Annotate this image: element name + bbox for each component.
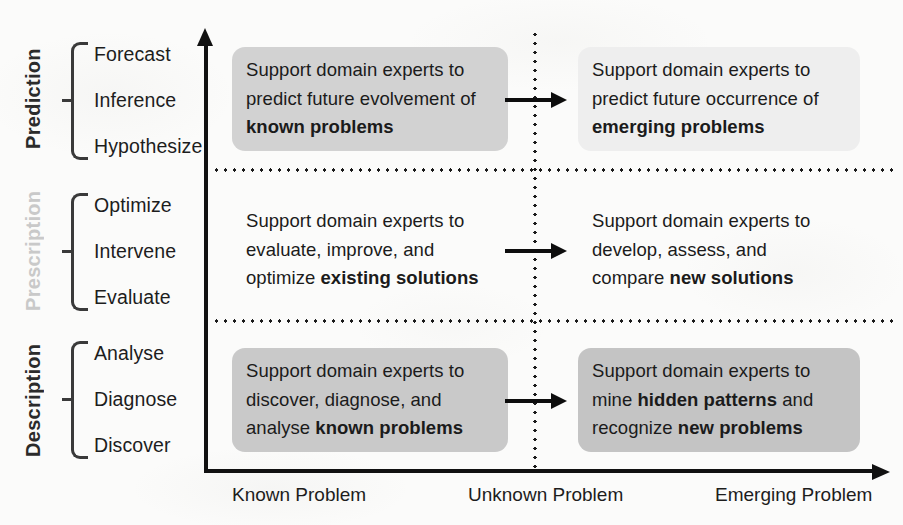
cell-text-line: Support domain experts to bbox=[592, 357, 847, 386]
x-axis-label-unknown-problem: Unknown Problem bbox=[468, 484, 623, 506]
axis-group-label-description: Description bbox=[22, 337, 45, 463]
cell-text-line: Support domain experts to bbox=[246, 56, 495, 85]
matrix-cell-prescription-emerging: Support domain experts todevelop, assess… bbox=[578, 198, 860, 302]
y-axis-line bbox=[204, 44, 208, 472]
cell-text-run: develop, assess, and bbox=[592, 239, 767, 260]
axis-item-forecast: Forecast bbox=[94, 43, 171, 66]
cell-text-emphasis: existing solutions bbox=[320, 267, 478, 288]
brace-description bbox=[71, 341, 88, 459]
matrix-cell-prediction-known: Support domain experts topredict future … bbox=[232, 47, 508, 151]
cell-text-line: optimize existing solutions bbox=[246, 264, 495, 293]
x-axis-arrowhead-icon bbox=[872, 464, 890, 480]
row-divider-prediction-prescription bbox=[212, 168, 894, 172]
x-axis-label-emerging-problem: Emerging Problem bbox=[715, 484, 872, 506]
cell-text-run: evaluate, improve, and bbox=[246, 239, 434, 260]
cell-text-run: Support domain experts to bbox=[592, 59, 810, 80]
cell-text-line: develop, assess, and bbox=[592, 236, 847, 265]
cell-text-run: Support domain experts to bbox=[246, 59, 464, 80]
cell-text-run: predict future evolvement of bbox=[246, 88, 476, 109]
cell-text-emphasis: known problems bbox=[315, 417, 463, 438]
matrix-cell-description-known: Support domain experts todiscover, diagn… bbox=[232, 348, 508, 452]
arrow-shaft bbox=[505, 249, 555, 253]
cell-text-line: emerging problems bbox=[592, 113, 847, 142]
matrix-cell-description-emerging: Support domain experts tomine hidden pat… bbox=[578, 348, 860, 452]
brace-stem-description bbox=[62, 398, 71, 401]
cell-text-line: Support domain experts to bbox=[246, 357, 495, 386]
axis-item-inference: Inference bbox=[94, 89, 176, 112]
cell-text-run: predict future occurrence of bbox=[592, 88, 819, 109]
cell-text-emphasis: emerging problems bbox=[592, 116, 765, 137]
row-divider-prescription-description bbox=[212, 319, 894, 323]
cell-text-line: Support domain experts to bbox=[592, 207, 847, 236]
arrow-head-icon bbox=[551, 92, 567, 108]
cell-text-line: evaluate, improve, and bbox=[246, 236, 495, 265]
diagram-canvas: Prediction Forecast Inference Hypothesiz… bbox=[0, 0, 903, 525]
arrow-shaft bbox=[505, 98, 555, 102]
brace-prediction bbox=[71, 42, 88, 160]
cell-text-run: Support domain experts to bbox=[592, 210, 810, 231]
cell-text-line: analyse known problems bbox=[246, 414, 495, 443]
cell-text-run: Support domain experts to bbox=[246, 210, 464, 231]
brace-stem-prescription bbox=[62, 250, 71, 253]
matrix-cell-prediction-emerging: Support domain experts topredict future … bbox=[578, 47, 860, 151]
cell-text-line: Support domain experts to bbox=[246, 207, 495, 236]
matrix-cell-prescription-known: Support domain experts toevaluate, impro… bbox=[232, 198, 508, 302]
y-axis-arrowhead-icon bbox=[197, 28, 213, 46]
cell-text-emphasis: known problems bbox=[246, 116, 394, 137]
cell-text-run: recognize bbox=[592, 417, 678, 438]
cell-text-line: mine hidden patterns and bbox=[592, 386, 847, 415]
axis-item-discover: Discover bbox=[94, 434, 171, 457]
cell-text-emphasis: hidden patterns bbox=[638, 389, 778, 410]
cell-text-line: predict future occurrence of bbox=[592, 85, 847, 114]
cell-text-run: optimize bbox=[246, 267, 320, 288]
cell-text-run: Support domain experts to bbox=[246, 360, 464, 381]
brace-prescription bbox=[71, 193, 88, 311]
axis-group-label-prescription: Prescription bbox=[22, 189, 45, 313]
cell-text-line: Support domain experts to bbox=[592, 56, 847, 85]
axis-item-analyse: Analyse bbox=[94, 342, 164, 365]
cell-text-run: Support domain experts to bbox=[592, 360, 810, 381]
x-axis-line bbox=[204, 469, 876, 473]
cell-text-emphasis: new solutions bbox=[670, 267, 794, 288]
axis-item-intervene: Intervene bbox=[94, 240, 176, 263]
axis-item-evaluate: Evaluate bbox=[94, 286, 171, 309]
cell-text-run: mine bbox=[592, 389, 638, 410]
axis-group-label-prediction: Prediction bbox=[22, 38, 45, 160]
axis-item-optimize: Optimize bbox=[94, 194, 172, 217]
cell-text-line: discover, diagnose, and bbox=[246, 386, 495, 415]
cell-text-emphasis: new problems bbox=[678, 417, 803, 438]
cell-text-run: and bbox=[777, 389, 813, 410]
cell-text-run: discover, diagnose, and bbox=[246, 389, 442, 410]
cell-text-line: predict future evolvement of bbox=[246, 85, 495, 114]
arrow-head-icon bbox=[551, 393, 567, 409]
arrow-shaft bbox=[505, 399, 555, 403]
cell-text-run: analyse bbox=[246, 417, 315, 438]
cell-text-line: recognize new problems bbox=[592, 414, 847, 443]
cell-text-line: compare new solutions bbox=[592, 264, 847, 293]
x-axis-label-known-problem: Known Problem bbox=[232, 484, 366, 506]
cell-text-run: compare bbox=[592, 267, 670, 288]
axis-item-diagnose: Diagnose bbox=[94, 388, 177, 411]
brace-stem-prediction bbox=[62, 99, 71, 102]
axis-item-hypothesize: Hypothesize bbox=[94, 135, 202, 158]
arrow-head-icon bbox=[551, 243, 567, 259]
cell-text-line: known problems bbox=[246, 113, 495, 142]
